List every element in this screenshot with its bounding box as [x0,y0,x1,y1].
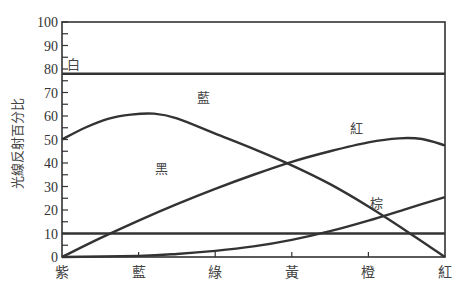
series-label: 棕 [370,196,383,211]
series-label: 藍 [197,90,210,105]
y-tick-label: 50 [44,133,58,148]
reflectance-chart: 0102030405060708090100 紫藍綠黃橙紅 白藍紅黑棕 光線反射… [0,0,472,296]
series-line-紅 [62,138,445,257]
y-tick-label: 10 [44,227,58,242]
series-label: 紅 [350,121,363,136]
series-lines [62,74,445,257]
y-tick-label: 100 [37,15,58,30]
y-tick-label: 30 [44,180,58,195]
y-tick-label: 70 [44,86,58,101]
y-tick-label: 60 [44,109,58,124]
x-category-label: 藍 [132,264,146,280]
x-category-label: 綠 [208,264,222,280]
series-label: 黑 [155,161,168,176]
y-tick-label: 20 [44,203,58,218]
y-tick-label: 80 [44,62,58,77]
y-tick-label: 40 [44,156,58,171]
x-category-label: 黃 [285,264,299,280]
x-category-label: 紫 [55,264,69,280]
x-category-label: 橙 [361,264,375,280]
series-line-藍 [62,113,445,257]
x-category-label: 紅 [438,264,452,280]
y-axis-label: 光線反射百分比 [10,98,25,189]
series-label: 白 [67,57,80,72]
y-tick-label: 0 [51,250,58,265]
series-line-棕 [62,197,445,257]
y-tick-label: 90 [44,39,58,54]
